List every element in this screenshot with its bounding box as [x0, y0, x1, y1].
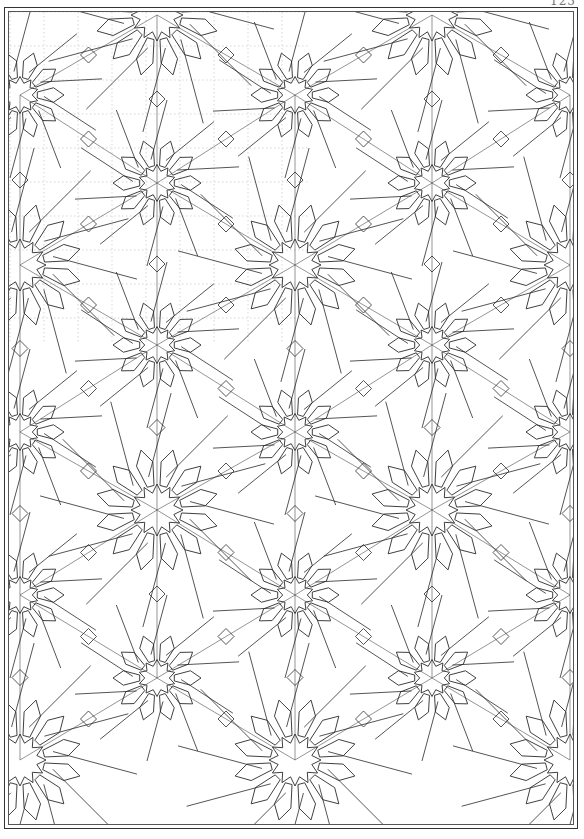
pattern-svg	[9, 12, 573, 824]
geometric-pattern-illustration	[9, 12, 573, 824]
